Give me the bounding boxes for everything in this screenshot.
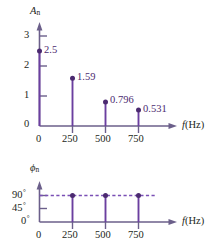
amplitude-value-label-250: 1.59	[77, 72, 95, 83]
amplitude-xtick-label-500: 500	[95, 134, 111, 145]
amplitude-chart-group	[37, 22, 177, 133]
amplitude-marker-750	[136, 108, 141, 113]
phase-xtick-label-500: 500	[95, 230, 111, 241]
amplitude-ytick-label-2: 2	[24, 60, 29, 71]
amplitude-y-axis-arrow	[37, 22, 43, 31]
phase-xtick-label-0: 0	[36, 230, 41, 241]
phase-ytick-label-0: 0°	[21, 216, 30, 227]
amplitude-marker-250	[70, 76, 75, 81]
amplitude-xtick-label-250: 250	[62, 134, 78, 145]
phase-marker-250	[70, 193, 75, 198]
amplitude-ytick-label-3: 3	[24, 30, 29, 41]
phase-ytick-label-45: 45°	[12, 203, 26, 214]
amplitude-marker-500	[103, 100, 108, 105]
amplitude-ytick-label-0: 0	[24, 119, 29, 130]
amplitude-value-label-500: 0.796	[110, 95, 134, 106]
phase-x-axis-label: f(Hz)	[182, 216, 204, 227]
amplitude-x-axis-arrow	[169, 123, 178, 129]
amplitude-marker-0	[37, 49, 42, 54]
amplitude-xtick-label-750: 750	[128, 134, 144, 145]
phase-xtick-label-750: 750	[128, 230, 144, 241]
amplitude-value-label-0: 2.5	[44, 45, 57, 56]
phase-x-axis-arrow	[169, 219, 178, 225]
phase-marker-750	[136, 193, 141, 198]
amplitude-ytick-label-1: 1	[24, 90, 29, 101]
phase-xtick-label-250: 250	[62, 230, 78, 241]
phase-ytick-label-90: 90°	[12, 190, 26, 201]
amplitude-xtick-label-0: 0	[36, 134, 41, 145]
phase-marker-500	[103, 193, 108, 198]
phase-y-axis-label: ϕn	[30, 163, 39, 174]
figure-spectrum-plots: An 3 2 1 0 0 250 500 750 2.5 1.59 0.796 …	[0, 0, 223, 242]
phase-chart-group	[37, 181, 177, 229]
amplitude-x-axis-label: f(Hz)	[182, 120, 204, 131]
phase-y-axis-arrow	[37, 181, 43, 190]
amplitude-value-label-750: 0.531	[143, 104, 167, 115]
amplitude-y-axis-label: An	[30, 6, 40, 17]
